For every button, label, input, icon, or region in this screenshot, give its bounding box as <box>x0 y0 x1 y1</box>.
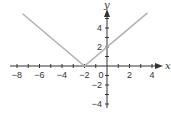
y-tick-label: 4 <box>97 23 102 33</box>
y-tick-label: −4 <box>92 99 102 109</box>
x-tick-label: 2 <box>127 70 132 80</box>
x-tick-label: −8 <box>12 70 22 80</box>
graph: −8 −6 −4 −2 0 2 4 4 2 −2 −4 x y <box>0 0 171 113</box>
y-tick-label: −2 <box>92 80 102 90</box>
y-axis-label: y <box>103 0 110 10</box>
x-tick-label: 4 <box>149 70 154 80</box>
function-curve <box>23 13 148 66</box>
x-tick-label: −4 <box>57 70 67 80</box>
x-axis-arrow-icon <box>155 63 163 69</box>
x-axis-label: x <box>165 60 171 71</box>
origin-label: 0 <box>98 70 103 80</box>
y-axis-arrow-icon <box>104 9 110 17</box>
y-tick-label: 2 <box>97 42 102 52</box>
x-tick-label: −6 <box>34 70 44 80</box>
x-tick-label: −2 <box>79 70 89 80</box>
